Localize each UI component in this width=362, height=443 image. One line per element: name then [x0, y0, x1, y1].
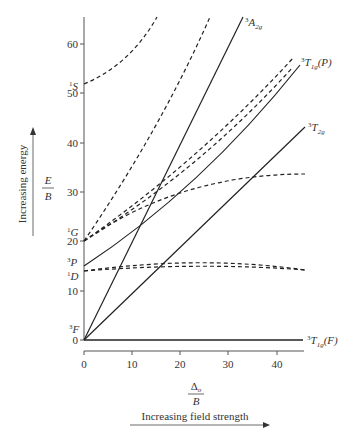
- svg-text:10: 10: [67, 285, 79, 297]
- curve-3A2g: [84, 17, 243, 340]
- svg-text:3T2g: 3T2g: [308, 121, 325, 136]
- svg-text:3P: 3P: [67, 256, 78, 268]
- svg-text:60: 60: [67, 38, 79, 50]
- svg-text:1D: 1D: [67, 270, 79, 282]
- curve-1G-flat: [84, 174, 305, 241]
- curve-1S: [84, 17, 157, 84]
- y-axis-label: E B: [42, 174, 54, 202]
- svg-text:B: B: [193, 395, 200, 407]
- svg-text:Δo: Δo: [191, 380, 202, 394]
- curve-1G-upper: [84, 57, 294, 241]
- svg-text:0: 0: [81, 358, 87, 370]
- svg-text:40: 40: [272, 358, 284, 370]
- svg-text:0: 0: [73, 334, 79, 346]
- curve-1G-mid: [84, 67, 293, 241]
- svg-text:Increasing field strength: Increasing field strength: [142, 410, 249, 422]
- tanabe-sugano-chart: 0 10 20 30 40 50 60 0 10 20 30 40 Δo B I…: [0, 0, 362, 443]
- curve-1G-steep: [84, 17, 210, 241]
- svg-text:3F: 3F: [69, 323, 80, 335]
- y-ticks: [80, 44, 84, 340]
- solid-curves: [84, 17, 305, 340]
- svg-text:3T1g(F): 3T1g(F): [307, 334, 338, 349]
- y-arrow: Increasing energy: [16, 127, 36, 236]
- svg-text:30: 30: [223, 358, 235, 370]
- svg-text:10: 10: [127, 358, 139, 370]
- svg-text:B: B: [45, 190, 52, 202]
- svg-text:40: 40: [67, 137, 79, 149]
- x-ticks: [84, 351, 277, 355]
- svg-text:20: 20: [175, 358, 187, 370]
- state-labels: 3A2g 3T1g(P) 3T2g 3T1g(F): [245, 16, 338, 349]
- svg-text:30: 30: [67, 186, 79, 198]
- curve-3T2g: [84, 127, 305, 340]
- x-tick-labels: 0 10 20 30 40: [81, 358, 283, 370]
- svg-text:E: E: [44, 174, 52, 186]
- curve-1D-b: [84, 266, 305, 271]
- x-axis-label: Δo B: [188, 380, 204, 407]
- curve-1D-a: [84, 263, 305, 271]
- svg-text:3A2g: 3A2g: [245, 16, 263, 31]
- svg-text:Increasing energy: Increasing energy: [16, 144, 28, 223]
- svg-text:3T1g(P): 3T1g(P): [301, 56, 332, 71]
- x-arrow: Increasing field strength: [130, 410, 270, 428]
